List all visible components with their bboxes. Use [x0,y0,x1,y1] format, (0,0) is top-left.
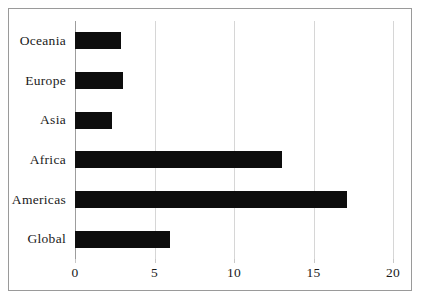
bar-row: Asia [75,112,393,129]
bar-europe [75,72,123,89]
category-label-americas: Americas [12,192,66,208]
bar-americas [75,191,347,208]
x-tick-label-0: 0 [71,265,78,281]
x-tick-label-15: 15 [306,265,320,281]
bar-row: Global [75,231,393,248]
plot-area: 05101520GlobalAmericasAfricaAsiaEuropeOc… [75,21,393,259]
category-label-europe: Europe [25,73,66,89]
gridline-x-5 [155,21,156,259]
bar-row: Americas [75,191,393,208]
x-tick-label-20: 20 [386,265,400,281]
gridline-x-20 [393,21,394,259]
chart-frame-border: 05101520GlobalAmericasAfricaAsiaEuropeOc… [8,8,412,291]
category-label-oceania: Oceania [20,33,66,49]
gridline-x-15 [314,21,315,259]
gridline-x-10 [234,21,235,259]
bar-row: Africa [75,151,393,168]
category-label-africa: Africa [30,152,66,168]
x-tick-mark-5 [155,259,156,263]
bar-asia [75,112,112,129]
bar-row: Oceania [75,32,393,49]
category-label-asia: Asia [40,112,66,128]
category-label-global: Global [27,231,66,247]
x-tick-mark-15 [314,259,315,263]
x-tick-label-10: 10 [227,265,241,281]
axis-line-zero [75,21,76,259]
x-tick-mark-0 [75,259,76,263]
bar-oceania [75,32,121,49]
bar-row: Europe [75,72,393,89]
bar-chart-figure: 05101520GlobalAmericasAfricaAsiaEuropeOc… [0,0,421,303]
x-tick-label-5: 5 [151,265,158,281]
x-tick-mark-20 [393,259,394,263]
bar-global [75,231,170,248]
x-tick-mark-10 [234,259,235,263]
bar-africa [75,151,282,168]
